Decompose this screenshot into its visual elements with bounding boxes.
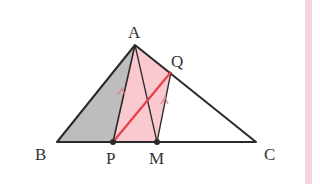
label-A: A bbox=[128, 24, 140, 41]
label-M: M bbox=[149, 150, 164, 167]
label-B: B bbox=[35, 146, 46, 163]
point-P bbox=[110, 139, 116, 145]
label-C: C bbox=[264, 146, 275, 163]
label-Q: Q bbox=[171, 53, 183, 70]
point-M bbox=[154, 139, 160, 145]
label-P: P bbox=[106, 150, 115, 167]
